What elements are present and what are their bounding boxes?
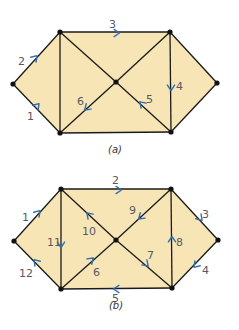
node-TL [57, 29, 62, 34]
node-TR [167, 29, 172, 34]
edge-label-3: 3 [202, 208, 209, 221]
node-TL [58, 186, 63, 191]
caption-b: (b) [109, 300, 123, 311]
diagram-b: 123456789101112(b) [11, 174, 220, 311]
edge-label-6: 6 [93, 266, 100, 279]
node-R [215, 237, 220, 242]
edge-label-6: 6 [77, 95, 84, 108]
diagram-a: 123456(a) [10, 18, 219, 155]
edge-label-1: 1 [22, 211, 29, 224]
node-L [11, 238, 16, 243]
node-R [214, 80, 219, 85]
edge-label-7: 7 [147, 249, 154, 262]
node-BR [168, 129, 173, 134]
network-diagram-canvas: 123456(a)123456789101112(b) [0, 0, 239, 330]
edge-label-3: 3 [109, 18, 116, 31]
edge-label-11: 11 [47, 236, 61, 249]
edge-label-1: 1 [27, 110, 34, 123]
node-L [10, 81, 15, 86]
node-BL [57, 130, 62, 135]
edge-label-9: 9 [129, 204, 136, 217]
node-C [113, 237, 118, 242]
edge-label-10: 10 [82, 225, 96, 238]
node-TR [168, 186, 173, 191]
caption-a: (a) [108, 144, 122, 155]
edge-label-8: 8 [176, 236, 183, 249]
edge-label-4: 4 [202, 264, 209, 277]
edge-label-12: 12 [19, 267, 33, 280]
node-C [113, 79, 118, 84]
edge-label-5: 5 [146, 93, 153, 106]
edge-label-2: 2 [112, 174, 119, 187]
edge-label-4: 4 [176, 80, 183, 93]
node-BL [58, 286, 63, 291]
edge-label-2: 2 [18, 55, 25, 68]
node-BR [169, 285, 174, 290]
